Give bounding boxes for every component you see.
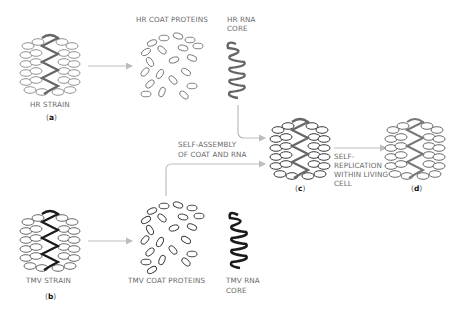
panel-tag-d-letter: d — [414, 184, 419, 193]
progeny-virus-icon — [385, 119, 445, 179]
panel-tag-b: (b) — [45, 292, 56, 301]
arrow-tmv-proteins-to-hybrid — [166, 164, 265, 196]
hr-strain-virus-icon — [20, 35, 80, 95]
panel-tag-c-letter: c — [298, 184, 302, 193]
arrow-hr-rna-to-hybrid — [238, 105, 265, 138]
tmv-rna-core-icon — [230, 213, 247, 268]
panel-tag-b-letter: b — [48, 292, 53, 301]
self-assembly-label-line2: OF COAT AND RNA — [178, 150, 247, 160]
self-replication-label-line4: CELL — [334, 179, 352, 189]
panel-tag-a: (a) — [46, 113, 57, 122]
hr-coat-proteins-label: HR COAT PROTEINS — [136, 15, 208, 25]
hr-rna-core-icon — [228, 43, 245, 98]
self-assembly-label-line1: SELF-ASSEMBLY — [178, 140, 236, 150]
diagram-canvas — [0, 0, 462, 321]
tmv-rna-core-label-line2: CORE — [226, 286, 247, 296]
hr-strain-label: HR STRAIN — [30, 100, 70, 110]
panel-tag-d: (d) — [411, 184, 422, 193]
tmv-strain-virus-icon — [20, 211, 80, 271]
tmv-rna-core-label-line1: TMV RNA — [226, 276, 260, 286]
tmv-coat-proteins-label: TMV COAT PROTEINS — [128, 276, 205, 286]
tmv-strain-label: TMV STRAIN — [26, 276, 71, 286]
panel-tag-a-letter: a — [49, 113, 54, 122]
panel-tag-c: (c) — [295, 184, 305, 193]
hybrid-virus-icon — [270, 119, 330, 179]
tmv-coat-proteins-icon — [140, 201, 204, 275]
hr-rna-core-label-line2: CORE — [227, 24, 248, 34]
hr-coat-proteins-icon — [140, 32, 203, 100]
